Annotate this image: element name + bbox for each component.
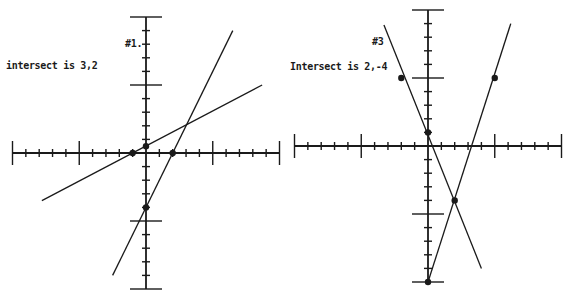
data-point-marker <box>425 129 431 135</box>
worksheet-page: #1. intersect is 3,2 #3 Intersect is 2,-… <box>0 0 574 307</box>
data-point-marker <box>492 75 498 81</box>
graph-1 <box>13 17 280 289</box>
plot-line <box>428 24 511 282</box>
plot-line <box>42 85 262 201</box>
data-point-marker <box>170 150 176 156</box>
data-point-marker <box>425 279 431 285</box>
data-point-marker <box>143 204 149 210</box>
data-point-marker <box>129 150 135 156</box>
data-point-marker <box>398 75 404 81</box>
data-point-marker <box>143 143 149 149</box>
graphs-canvas <box>0 0 574 307</box>
data-point-marker <box>452 197 458 203</box>
graph-3 <box>295 10 562 285</box>
